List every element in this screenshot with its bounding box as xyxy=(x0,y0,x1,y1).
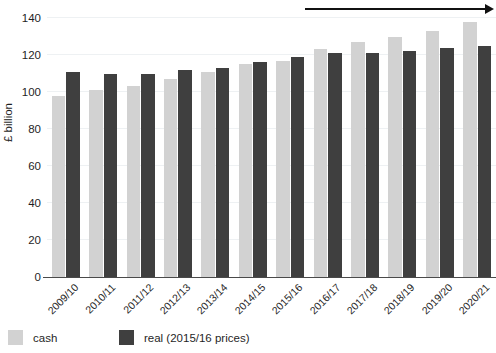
y-tick-label: 120 xyxy=(22,49,41,61)
bar-group xyxy=(459,18,496,277)
bar-group xyxy=(84,18,121,277)
bar-group xyxy=(346,18,383,277)
bar-real xyxy=(141,74,155,278)
planned-arrow-head-icon xyxy=(485,4,494,14)
bar-group xyxy=(234,18,271,277)
legend-swatch-cash-icon xyxy=(8,330,23,345)
bar-real xyxy=(291,57,305,277)
bar-cash xyxy=(314,49,328,277)
legend-label-cash: cash xyxy=(33,332,57,344)
bar-cash xyxy=(351,42,365,277)
bar-real xyxy=(178,70,192,277)
bar-real xyxy=(66,72,80,277)
bar-cash xyxy=(239,64,253,277)
bar-real xyxy=(104,74,118,278)
planned-label: Planned xyxy=(300,0,486,2)
bar-group xyxy=(272,18,309,277)
y-tick-label: 100 xyxy=(22,86,41,98)
bar-group xyxy=(197,18,234,277)
bar-cash xyxy=(89,90,103,277)
bar-real xyxy=(216,68,230,277)
planned-annotation: Planned xyxy=(300,0,496,18)
y-axis-title: £ billion xyxy=(2,103,14,142)
bar-group xyxy=(47,18,84,277)
y-tick-label: 80 xyxy=(28,123,41,135)
bar-cash xyxy=(52,96,66,277)
bar-group xyxy=(421,18,458,277)
bar-cash xyxy=(201,72,215,277)
x-axis-line xyxy=(43,277,496,278)
plot-area xyxy=(47,18,496,277)
bar-group xyxy=(384,18,421,277)
bar-cash xyxy=(463,22,477,277)
legend-label-real: real (2015/16 prices) xyxy=(144,332,249,344)
bar-real xyxy=(366,53,380,277)
bar-cash xyxy=(164,79,178,277)
bar-real xyxy=(440,48,454,277)
y-tick-label: 40 xyxy=(28,197,41,209)
bar-real xyxy=(478,46,492,277)
bar-group xyxy=(159,18,196,277)
bar-cash xyxy=(388,37,402,278)
y-tick-label: 20 xyxy=(28,234,41,246)
y-tick-label: 140 xyxy=(22,12,41,24)
bar-group xyxy=(122,18,159,277)
bar-cash xyxy=(276,61,290,277)
bar-group xyxy=(309,18,346,277)
planned-arrow-line xyxy=(305,8,487,10)
bar-chart: 020406080100120140 £ billion 2009/102010… xyxy=(0,0,496,353)
bar-real xyxy=(253,62,267,277)
bar-real xyxy=(403,51,417,277)
legend-item-cash: cash xyxy=(8,330,57,345)
y-tick-label: 60 xyxy=(28,160,41,172)
legend-item-real: real (2015/16 prices) xyxy=(119,330,249,345)
bar-real xyxy=(328,53,342,277)
y-tick-label: 0 xyxy=(35,271,41,283)
legend-swatch-real-icon xyxy=(119,330,134,345)
bar-cash xyxy=(426,31,440,277)
bar-cash xyxy=(127,86,141,277)
